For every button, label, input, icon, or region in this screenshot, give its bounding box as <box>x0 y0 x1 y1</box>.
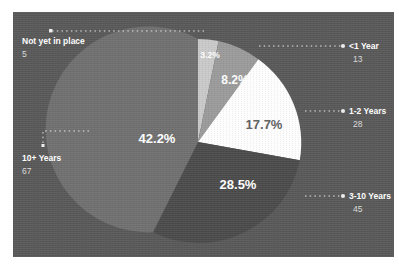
leader-dot-lt-1-year <box>341 44 345 48</box>
pie-callout-value-not-yet-in-place: 5 <box>22 49 27 59</box>
pie-chart-figure: 3.2% 8.2% 17.7% 28.5% 42.2% Not yet in p… <box>0 0 399 275</box>
pie-pct-label-3-10-years: 28.5% <box>220 177 257 192</box>
pie-chart-svg: 3.2% 8.2% 17.7% 28.5% 42.2% Not yet in p… <box>13 12 394 257</box>
pie-pct-label-1-2-years: 17.7% <box>246 117 283 132</box>
chart-plot-panel: 3.2% 8.2% 17.7% 28.5% 42.2% Not yet in p… <box>13 12 394 257</box>
pie-callout-lt-1-year: <1 Year 13 <box>259 41 380 64</box>
pie-callout-label-3-10-years: 3-10 Years <box>349 191 391 201</box>
leader-dot-10-plus-years <box>42 144 45 147</box>
leader-dot-3-10-years <box>341 194 345 198</box>
pie-callout-value-1-2-years: 28 <box>353 119 363 129</box>
pie-callout-1-2-years: 1-2 Years 28 <box>305 106 386 129</box>
pie-callout-3-10-years: 3-10 Years 45 <box>305 191 391 214</box>
pie-callout-label-not-yet-in-place: Not yet in place <box>22 36 85 46</box>
pie-pct-label-10-plus-years: 42.2% <box>139 131 176 146</box>
leader-dot-not-yet-in-place <box>49 29 52 32</box>
pie-callout-value-3-10-years: 45 <box>353 204 363 214</box>
pie-callout-value-10-plus-years: 67 <box>22 166 32 176</box>
pie-callout-value-lt-1-year: 13 <box>353 54 363 64</box>
leader-dot-1-2-years <box>341 109 345 113</box>
pie-callout-label-10-plus-years: 10+ Years <box>22 153 62 163</box>
pie-pct-label-not-yet-in-place: 3.2% <box>200 50 220 60</box>
pie-pct-label-lt-1-year: 8.2% <box>221 73 249 87</box>
pie-callout-label-lt-1-year: <1 Year <box>349 41 380 51</box>
pie-callout-label-1-2-years: 1-2 Years <box>349 106 386 116</box>
